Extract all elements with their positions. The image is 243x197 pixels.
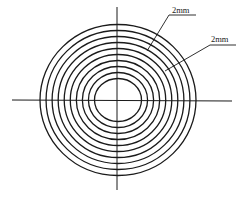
dimension-label-1: 2mm: [172, 5, 190, 15]
dimension-label-2: 2mm: [211, 34, 229, 44]
dimension-annotation-1: 2mm: [147, 5, 196, 51]
horizontal-axis: [12, 100, 232, 101]
ring-diagram: 2mm 2mm: [0, 0, 243, 197]
dimension-annotation-2: 2mm: [165, 34, 236, 71]
